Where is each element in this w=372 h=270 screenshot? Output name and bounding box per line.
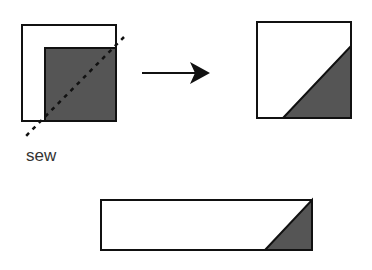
sew-label: sew bbox=[26, 146, 56, 166]
arrow-icon bbox=[142, 62, 210, 84]
step1-overlapping-squares bbox=[22, 25, 124, 138]
dark-square bbox=[45, 48, 116, 121]
step3-rectangle bbox=[101, 200, 312, 250]
sew-and-flip-diagram bbox=[0, 0, 372, 270]
step2-result-square bbox=[257, 22, 351, 118]
